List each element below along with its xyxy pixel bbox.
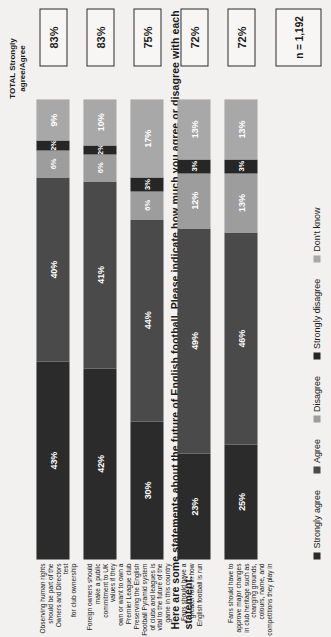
stacked-bar: 30%44%6%3%17% xyxy=(130,99,163,559)
bar-segment-disagree: 13% xyxy=(224,173,257,233)
stacked-bar-plot: 43%40%6%2%9%42%41%6%2%10%30%44%6%3%17%23… xyxy=(36,99,276,559)
bar-segment-don-t-know: 10% xyxy=(83,99,116,145)
bar-segment-agree: 49% xyxy=(177,228,210,453)
total-agree-box: 72% xyxy=(180,8,208,66)
bar-row: 23%49%12%3%13% xyxy=(177,99,210,559)
bar-segment-strongly-disagree: 3% xyxy=(224,159,257,173)
total-agree-box: 75% xyxy=(133,8,161,66)
legend-label: Strongly disagree xyxy=(311,278,321,348)
bar-segment-strongly-disagree: 3% xyxy=(130,177,163,191)
legend-label: Disagree xyxy=(311,375,321,411)
category-label-line: changing grounds, colours, name, and com… xyxy=(249,563,272,637)
stacked-bar: 43%40%6%2%9% xyxy=(36,99,69,559)
legend-item: Don't know xyxy=(311,207,321,262)
category-label: Preserving the English Football Pyramid … xyxy=(132,563,171,637)
total-column-header: TOTAL Strongly agree/Agree xyxy=(7,8,26,128)
bar-segment-disagree: 6% xyxy=(36,150,69,178)
bar-segment-strongly-disagree: 2% xyxy=(83,145,116,154)
chart-legend: Strongly agreeAgreeDisagreeStrongly disa… xyxy=(311,207,321,559)
legend-item: Agree xyxy=(311,438,321,473)
category-label-line: Foreign owners should make a public comm… xyxy=(85,563,116,637)
category-label: Fans should have to approve major change… xyxy=(226,563,273,637)
rotated-poster-wrapper: Here are some statements about the futur… xyxy=(0,0,331,637)
bar-segment-agree: 40% xyxy=(36,177,69,361)
total-header-line-2: agree/Agree xyxy=(17,8,27,128)
bar-segment-strongly-disagree: 2% xyxy=(36,140,69,149)
legend-label: Strongly agree xyxy=(311,489,321,548)
stacked-bar: 23%49%12%3%13% xyxy=(177,99,210,559)
total-header-line-1: TOTAL Strongly xyxy=(7,8,17,128)
legend-label: Agree xyxy=(311,438,321,462)
bar-row: 42%41%6%2%10% xyxy=(83,99,116,559)
category-label-line: own or want to own a Premier League club xyxy=(116,563,132,637)
bar-segment-agree: 41% xyxy=(83,181,116,368)
total-agree-box: 72% xyxy=(227,8,255,66)
bar-segment-strongly-agree: 25% xyxy=(224,444,257,559)
legend-item: Strongly disagree xyxy=(311,278,321,359)
legend-label: Don't know xyxy=(311,207,321,251)
bar-row: 43%40%6%2%9% xyxy=(36,99,69,559)
bar-segment-disagree: 6% xyxy=(83,154,116,181)
bar-segment-don-t-know: 9% xyxy=(36,99,69,140)
chart-sheet: Here are some statements about the futur… xyxy=(0,0,331,637)
bar-row: 25%46%13%3%13% xyxy=(224,99,257,559)
legend-item: Strongly agree xyxy=(311,489,321,559)
stacked-bar: 42%41%6%2%10% xyxy=(83,99,116,559)
category-label: Fans should have a greater role in how E… xyxy=(179,563,202,637)
bar-segment-agree: 46% xyxy=(224,232,257,444)
bar-segment-disagree: 6% xyxy=(130,191,163,219)
total-agree-box: 83% xyxy=(86,8,114,66)
bar-segment-strongly-disagree: 3% xyxy=(177,159,210,173)
category-label-line: Observing human rights should be part of… xyxy=(38,563,69,637)
bar-segment-strongly-agree: 43% xyxy=(36,361,69,559)
category-label-line: for club ownership xyxy=(69,563,77,637)
category-label-line: Fans should have to approve major change… xyxy=(226,563,249,637)
base-size-box: n = 1,192 xyxy=(275,8,321,66)
legend-swatch-icon xyxy=(313,352,320,359)
category-label-line: vital to the future of the game in this … xyxy=(155,563,171,637)
bar-segment-don-t-know: 13% xyxy=(177,99,210,159)
bar-segment-strongly-agree: 42% xyxy=(83,368,116,559)
bar-segment-disagree: 12% xyxy=(177,173,210,228)
legend-swatch-icon xyxy=(313,255,320,262)
category-label-line: Fans should have a greater role in how E… xyxy=(179,563,202,637)
bar-segment-don-t-know: 17% xyxy=(130,99,163,177)
bar-segment-strongly-agree: 30% xyxy=(130,421,163,559)
bar-segment-strongly-agree: 23% xyxy=(177,453,210,559)
bar-segment-agree: 44% xyxy=(130,219,163,421)
category-label-line: Preserving the English Football Pyramid … xyxy=(132,563,155,637)
stacked-bar: 25%46%13%3%13% xyxy=(224,99,257,559)
legend-swatch-icon xyxy=(313,552,320,559)
legend-item: Disagree xyxy=(311,375,321,422)
legend-swatch-icon xyxy=(313,466,320,473)
legend-swatch-icon xyxy=(313,415,320,422)
bar-segment-don-t-know: 13% xyxy=(224,99,257,159)
bar-row: 30%44%6%3%17% xyxy=(130,99,163,559)
category-label: Observing human rights should be part of… xyxy=(38,563,77,637)
total-agree-box: 83% xyxy=(39,8,67,66)
category-label: Foreign owners should make a public comm… xyxy=(85,563,132,637)
